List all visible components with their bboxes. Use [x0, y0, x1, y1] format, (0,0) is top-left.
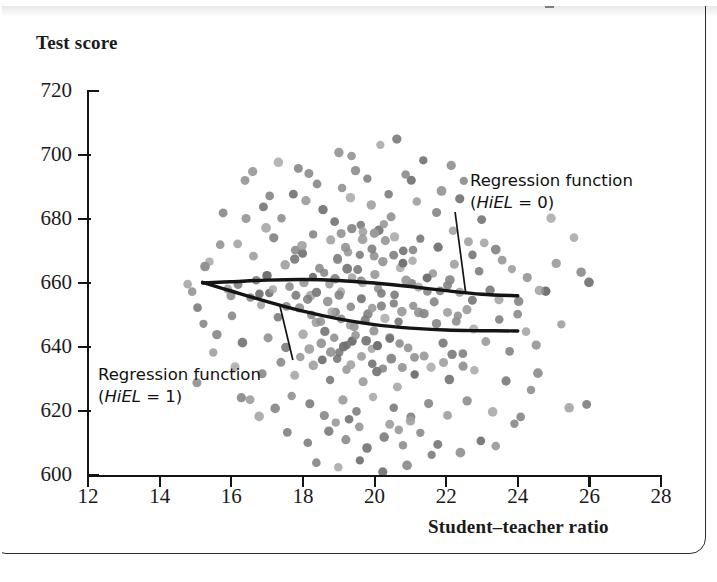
data-point [370, 270, 379, 279]
data-point [269, 233, 278, 242]
data-point [334, 463, 343, 472]
data-point [301, 196, 310, 205]
data-point [398, 363, 407, 372]
data-point [584, 278, 594, 288]
data-point [510, 420, 518, 428]
data-layer [88, 80, 662, 476]
data-point [316, 339, 326, 349]
data-point [399, 441, 408, 450]
data-point [491, 245, 501, 255]
hiel-var-0: HiEL [476, 193, 513, 212]
data-point [505, 347, 514, 356]
data-point [527, 386, 535, 394]
data-point [327, 307, 336, 316]
data-point [393, 382, 402, 391]
data-point [289, 190, 298, 199]
data-point [346, 193, 356, 203]
data-point [347, 152, 356, 161]
data-point [439, 358, 448, 367]
data-point [564, 403, 574, 413]
data-point [330, 334, 339, 343]
data-point [392, 134, 401, 143]
data-point [438, 338, 447, 347]
x-axis-title: Student–teacher ratio [428, 516, 609, 538]
data-point [401, 276, 411, 286]
data-point [351, 331, 360, 340]
data-point [357, 294, 366, 303]
data-point [265, 192, 274, 201]
data-point [416, 429, 424, 437]
data-point [358, 235, 368, 245]
data-point [339, 342, 349, 352]
data-point [433, 440, 442, 449]
leader-line-hiel0 [455, 212, 466, 294]
data-point [332, 418, 340, 426]
data-point [475, 267, 484, 276]
data-point [535, 286, 545, 296]
data-point [283, 428, 292, 437]
data-point [470, 366, 479, 375]
data-point [491, 442, 500, 451]
data-point [269, 285, 277, 293]
x-tick-label-22: 22 [426, 486, 466, 507]
data-point [276, 358, 285, 367]
data-point [193, 303, 202, 312]
data-point [389, 251, 398, 260]
data-point [508, 265, 516, 273]
data-point [410, 370, 418, 378]
y-tick-640 [78, 346, 91, 348]
data-point [294, 164, 303, 173]
data-point [495, 315, 504, 324]
data-point [468, 251, 477, 260]
annotation-hiel1-line1: Regression function [98, 364, 261, 386]
data-point [432, 319, 441, 328]
data-point [582, 400, 591, 409]
data-point [426, 363, 435, 372]
data-point [455, 194, 464, 203]
data-point [552, 259, 561, 268]
data-point [462, 396, 471, 405]
data-point [183, 280, 192, 289]
data-point [557, 320, 565, 328]
data-point [406, 416, 415, 425]
data-point [309, 361, 319, 371]
data-point [449, 226, 458, 235]
data-point [386, 335, 395, 344]
data-point [480, 238, 489, 247]
y-axis-title: Test score [36, 32, 118, 54]
data-point [416, 235, 424, 243]
y-tick-label-640: 640 [14, 336, 72, 357]
data-point [290, 254, 299, 263]
data-point [357, 352, 366, 361]
x-tick-label-24: 24 [498, 486, 538, 507]
x-tick-label-28: 28 [641, 486, 681, 507]
data-point [333, 354, 342, 363]
data-point [254, 412, 264, 422]
data-point [368, 359, 377, 368]
y-tick-label-600: 600 [14, 464, 72, 485]
data-point [409, 302, 417, 310]
data-point [367, 200, 376, 209]
data-point [341, 435, 350, 444]
data-point [513, 310, 522, 319]
data-point [377, 289, 386, 298]
hiel-var-1: HiEL [104, 387, 141, 406]
data-point [376, 141, 384, 149]
data-point [285, 282, 294, 291]
data-point [456, 448, 466, 458]
data-point [274, 158, 284, 168]
data-point [333, 254, 341, 262]
data-point [378, 257, 387, 266]
y-tick-720 [87, 90, 99, 92]
data-point [259, 202, 268, 211]
data-point [576, 267, 586, 277]
scatter-plot-figure: Test score Student–teacher ratio 6006206… [0, 0, 717, 582]
data-point [447, 161, 456, 170]
data-point [397, 307, 407, 317]
data-point [390, 290, 399, 299]
data-point [459, 362, 468, 371]
data-point [298, 330, 307, 339]
x-tick-label-26: 26 [569, 486, 609, 507]
data-point [369, 326, 378, 335]
data-point [359, 377, 368, 386]
